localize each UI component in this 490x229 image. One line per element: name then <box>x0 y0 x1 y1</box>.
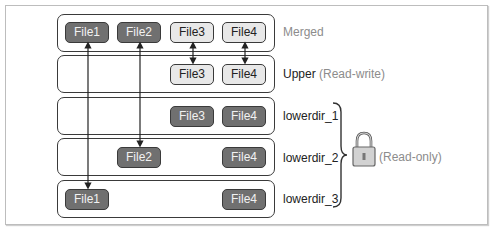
label-suffix: (Read-write) <box>319 67 385 81</box>
readonly-label: (Read-only) <box>379 150 442 164</box>
layer-label-lowerdir-3: lowerdir_3 <box>283 192 338 206</box>
layer-lowerdir-3: File1 File4 <box>57 180 275 218</box>
layer-label-merged: Merged <box>283 25 324 39</box>
layer-merged: File1 File2 File3 File4 <box>57 14 275 52</box>
layer-label-lowerdir-1: lowerdir_1 <box>283 109 338 123</box>
file-box: File4 <box>222 106 266 127</box>
layer-lowerdir-1: File3 File4 <box>57 97 275 135</box>
label-text: lowerdir_1 <box>283 109 338 123</box>
label-text: lowerdir_2 <box>283 151 338 165</box>
layer-label-lowerdir-2: lowerdir_2 <box>283 151 338 165</box>
file-box: File1 <box>65 22 109 43</box>
file-box: File3 <box>170 64 214 85</box>
file-box: File2 <box>117 22 161 43</box>
label-text: lowerdir_3 <box>283 192 338 206</box>
file-box: File3 <box>170 22 214 43</box>
layer-label-upper: Upper (Read-write) <box>283 67 385 81</box>
file-box: File4 <box>222 22 266 43</box>
layer-upper: File3 File4 <box>57 55 275 93</box>
label-text: Merged <box>283 25 324 39</box>
file-box: File3 <box>170 106 214 127</box>
file-box: File1 <box>65 189 109 210</box>
file-box: File2 <box>117 147 161 168</box>
layer-lowerdir-2: File2 File4 <box>57 138 275 176</box>
file-box: File4 <box>222 64 266 85</box>
label-text: Upper <box>283 67 316 81</box>
file-box: File4 <box>222 147 266 168</box>
file-box: File4 <box>222 189 266 210</box>
